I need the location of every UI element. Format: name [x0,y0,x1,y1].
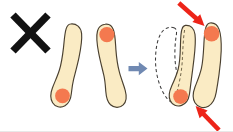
pressure-dot-heel [173,89,188,104]
diagram-canvas [0,0,233,132]
figure-root: Incorrect foot positioning corrected by … [0,0,233,132]
right-sole [97,24,126,107]
after-panel [156,3,222,130]
pressure-dot-heel [55,88,70,103]
force-arrow-top [179,3,205,26]
before-panel [51,24,126,107]
pressure-dot-forefoot [99,27,114,42]
pressure-dot-forefoot [204,26,220,42]
left-sole-shifted [169,25,195,106]
incorrect-mark [13,15,48,51]
right-sole-shifted [193,23,221,108]
transition-arrow [129,62,148,75]
force-arrow-bottom [196,106,219,130]
left-sole [51,24,82,107]
